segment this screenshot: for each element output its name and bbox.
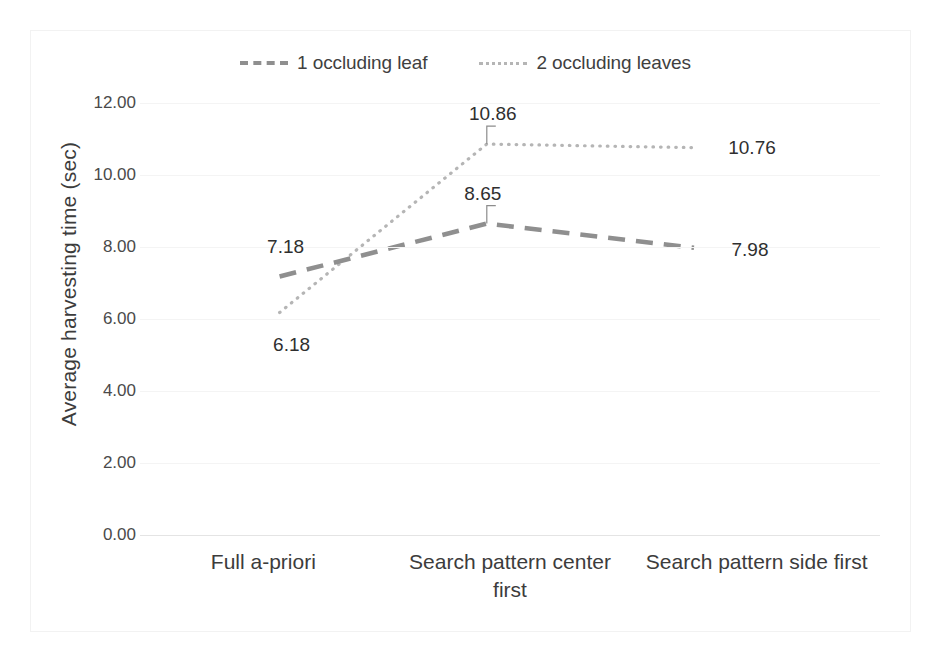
x-axis-line [140, 535, 880, 536]
y-axis-tick-label: 0.00 [66, 525, 136, 545]
label-leader-line [487, 126, 496, 144]
x-axis-category-label: Search pattern side first [633, 548, 880, 603]
x-axis-category-label: Search pattern center first [387, 548, 634, 603]
x-axis-category-label: Full a-priori [140, 548, 387, 603]
y-axis-tick-label: 12.00 [66, 93, 136, 113]
dashed-line-key-icon [240, 61, 288, 65]
y-axis-tick-label: 10.00 [66, 165, 136, 185]
data-label: 6.18 [273, 334, 310, 356]
label-leader-line [487, 206, 496, 224]
legend-label-series-2: 2 occluding leaves [536, 52, 691, 74]
y-axis-tick-label: 8.00 [66, 237, 136, 257]
dotted-line-key-icon [479, 62, 527, 65]
y-axis-tick-label: 6.00 [66, 309, 136, 329]
plot-area [140, 103, 880, 535]
data-label: 7.18 [267, 236, 304, 258]
y-axis-tick-label: 4.00 [66, 381, 136, 401]
y-axis-tick-label: 2.00 [66, 453, 136, 473]
data-label: 10.86 [469, 103, 517, 125]
series-line-2-occluding-leaves [280, 144, 694, 312]
gridline [140, 247, 880, 248]
line-chart: 1 occluding leaf 2 occluding leaves Aver… [0, 0, 931, 663]
gridline [140, 319, 880, 320]
legend-item-2-occluding-leaves[interactable]: 2 occluding leaves [479, 52, 691, 74]
legend-label-series-1: 1 occluding leaf [297, 52, 427, 74]
chart-legend: 1 occluding leaf 2 occluding leaves [0, 46, 931, 80]
legend-item-1-occluding-leaf[interactable]: 1 occluding leaf [240, 52, 427, 74]
gridline [140, 175, 880, 176]
gridline [140, 463, 880, 464]
x-axis-category-labels: Full a-prioriSearch pattern center first… [140, 548, 880, 603]
data-label: 10.76 [728, 137, 776, 159]
series-line-1-occluding-leaf [280, 224, 694, 277]
data-label: 7.98 [732, 239, 769, 261]
gridline [140, 391, 880, 392]
y-axis-tick-labels: 12.0010.008.006.004.002.000.00 [62, 0, 136, 663]
data-label: 8.65 [464, 183, 501, 205]
